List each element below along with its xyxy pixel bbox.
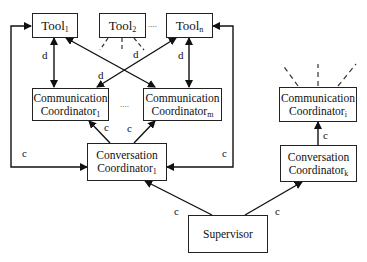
tool-n-subscript: n (199, 25, 203, 34)
conv1-line2: Coordinator (97, 162, 153, 174)
edge-label-c-convk-commi: c (323, 130, 328, 141)
convk-line2: Coordinator (289, 164, 345, 176)
convk-subscript: k (344, 169, 348, 178)
edges-layer (0, 0, 367, 262)
tool-2-subscript: 2 (132, 25, 136, 34)
edge-label-c-conv1-comm1: c (104, 122, 109, 133)
communication-coordinator-m-node: Communication Coordinatorm (143, 88, 222, 121)
conv1-line1: Conversation (96, 149, 157, 162)
communication-coordinator-1-node: Communication Coordinator1 (32, 88, 109, 121)
commi-line2: Coordinator (289, 105, 345, 117)
tool-n-label: Tool (176, 18, 200, 33)
supervisor-node: Supervisor (188, 215, 268, 253)
conversation-coordinator-1-node: Conversation Coordinator1 (87, 143, 167, 181)
comm1-line2: Coordinator (41, 105, 97, 117)
tool-1-node: Tool1 (32, 13, 78, 38)
tool-n-node: Tooln (166, 13, 213, 38)
commi-subscript: i (345, 110, 347, 119)
tool-1-label: Tool (41, 18, 65, 33)
comm1-subscript: 1 (96, 110, 100, 119)
tool-2-node: Tool2 (99, 13, 146, 38)
edge-label-d-tool1: d (42, 50, 48, 61)
edge-supervisor-convk (245, 182, 302, 215)
edge-conv1-commm (134, 121, 155, 143)
tool-2-label: Tool (109, 18, 133, 33)
edge-label-d-cross: d (98, 70, 104, 81)
comm-ellipsis: .... (120, 99, 129, 109)
supervisor-label: Supervisor (203, 228, 253, 241)
commm-line2: Coordinator (152, 105, 208, 117)
convk-line1: Conversation (288, 151, 349, 164)
edge-label-c-conv1-commm: c (127, 123, 132, 134)
conversation-coordinator-k-node: Conversation Coordinatork (280, 145, 357, 182)
edge-tooln-comm1 (97, 38, 176, 87)
tools-ellipsis: .... (148, 19, 157, 29)
edge-label-c-supervisor-conv1: c (174, 206, 179, 217)
conv1-subscript: 1 (153, 167, 157, 176)
commi-dashed-stubs (282, 64, 356, 86)
commi-line1: Communication (281, 92, 355, 105)
tool-1-subscript: 1 (65, 25, 69, 34)
commm-subscript: m (207, 110, 213, 119)
comm1-line1: Communication (33, 92, 107, 105)
edge-label-c-right-loop: c (222, 148, 227, 159)
edge-tool1-commm (66, 38, 155, 87)
commm-line1: Communication (145, 92, 219, 105)
edge-label-c-left-loop: c (22, 148, 27, 159)
edge-label-d-tooln: d (178, 50, 184, 61)
edge-label-d-tool2: d (133, 49, 139, 60)
edge-label-c-supervisor-convk: c (275, 206, 280, 217)
communication-coordinator-i-node: Communication Coordinatori (279, 87, 357, 122)
